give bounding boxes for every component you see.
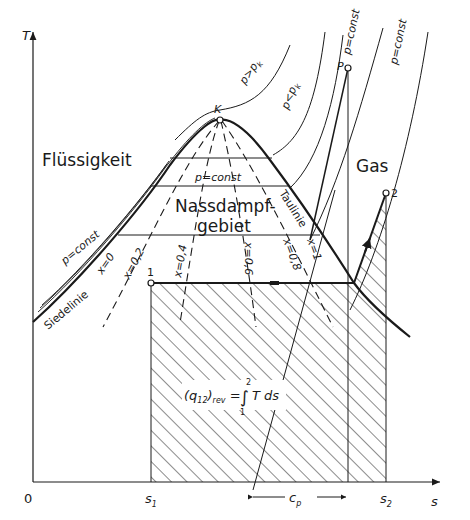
svg-text:2: 2 <box>246 378 251 387</box>
quality-x0-label: x=0 <box>93 251 117 278</box>
liquid-region-label: Flüssigkeit <box>42 150 132 170</box>
s1-label: s1 <box>145 491 157 509</box>
svg-text:1: 1 <box>240 408 245 417</box>
svg-text:T ds: T ds <box>252 388 279 403</box>
point-1 <box>148 280 154 286</box>
s2-label: s2 <box>380 491 392 509</box>
heat-area-hatch <box>151 193 386 482</box>
boiling-line-label: Siedelinie <box>42 288 91 332</box>
origin-label: 0 <box>24 491 32 506</box>
quality-x04-label: x=0,4 <box>171 244 190 280</box>
svg-text:∫: ∫ <box>240 387 249 407</box>
point-p <box>345 65 351 71</box>
isobar-taulinie-side <box>290 35 343 188</box>
isobar-const-p-label: p=const <box>340 7 363 56</box>
point-2 <box>383 190 389 196</box>
s-axis-label: s <box>431 494 438 509</box>
point-p-tangent <box>310 68 348 240</box>
critical-point <box>217 117 223 123</box>
wet-steam-label-1: Nassdampf- <box>175 196 276 216</box>
quality-x08-label: x=0,8 <box>280 236 304 273</box>
quality-x02-label: x=0,2 <box>120 246 148 282</box>
isobar-const-right-label: p=const <box>387 17 410 66</box>
point-1-label: 1 <box>147 266 154 279</box>
t-s-diagram: T s 0 s1 s2 Flüssigkeit Nassdampf- gebie… <box>0 0 470 520</box>
point-p-label: P <box>337 60 344 73</box>
t-axis-label: T <box>22 28 31 43</box>
wet-steam-label-2: gebiet <box>197 216 251 236</box>
supercritical-isobar <box>175 45 290 140</box>
isobar-below-critical-label: p<pk <box>278 80 303 113</box>
isobar-const-left-label: p=const <box>58 227 103 268</box>
isobar-above-critical-label: p>pk <box>236 56 265 89</box>
point-2-label: 2 <box>391 187 398 200</box>
isobar-p-below-critical <box>273 32 325 155</box>
critical-point-label: K <box>214 103 222 116</box>
svg-text:(q12)rev =: (q12)rev = <box>184 388 241 405</box>
gas-region-label: Gas <box>356 156 389 176</box>
quality-x06-label: x=0,6 <box>242 241 255 275</box>
isobar-const-inside-label: p=const <box>194 171 242 184</box>
